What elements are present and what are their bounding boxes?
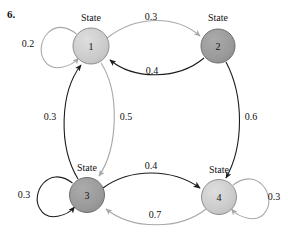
edge-label-state3-state4: 0.4 — [145, 161, 158, 171]
edge-label-state3-self: 0.3 — [18, 190, 31, 200]
edge-label-state1-self: 0.2 — [22, 39, 35, 49]
edge-state1-state2 — [107, 20, 200, 38]
state3-number: 3 — [85, 191, 90, 201]
state-transition-diagram: 6. State 1 State 2 State 3 State 4 0.2 0… — [0, 0, 288, 233]
edge-state3-self — [37, 177, 74, 217]
state1-caption: State — [81, 13, 101, 23]
edge-label-state1-state3: 0.5 — [120, 112, 133, 122]
edge-state4-self — [232, 179, 269, 219]
edge-label-state1-state2: 0.3 — [145, 12, 158, 22]
state1-number: 1 — [89, 42, 94, 52]
edge-label-state3-state1: 0.3 — [44, 112, 57, 122]
edge-state3-state4 — [103, 173, 200, 188]
state3-caption: State — [77, 163, 97, 173]
edge-state2-state4 — [226, 62, 240, 178]
problem-number: 6. — [7, 9, 15, 20]
state4-number: 4 — [217, 193, 222, 203]
edge-label-state4-self: 0.3 — [268, 192, 281, 202]
state2-caption: State — [208, 13, 228, 23]
edge-label-state4-state3: 0.7 — [149, 210, 162, 220]
edge-label-state2-state4: 0.6 — [245, 112, 258, 122]
state2-number: 2 — [216, 42, 221, 52]
edge-state1-state3 — [99, 63, 114, 176]
edge-label-state2-state1: 0.4 — [146, 66, 159, 76]
state4-caption: State — [209, 165, 229, 175]
